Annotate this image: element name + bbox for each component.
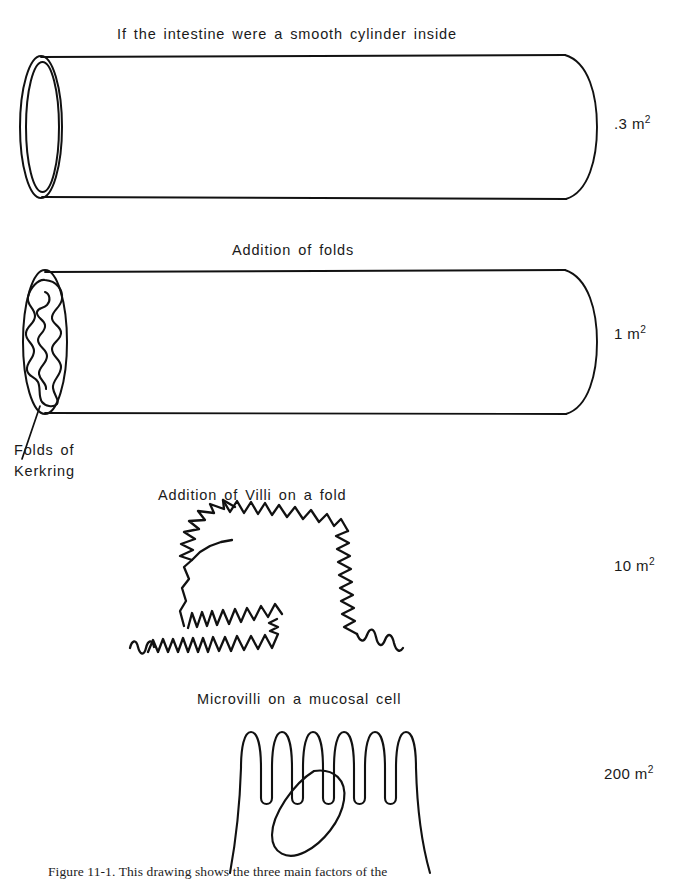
area-exponent-villi: 2 [649,556,655,567]
microvilli-illustration [210,710,480,875]
folded-cylinder-illustration [0,230,620,460]
area-exponent-smooth-cylinder: 2 [645,114,651,125]
area-label-smooth-cylinder: .3 m2 [614,115,651,132]
area-unit-villi: m [636,557,649,574]
smooth-cylinder-illustration [0,0,620,230]
stage-caption-microvilli: Microvilli on a mucosal cell [197,691,401,708]
folds-of-kerkring-line2: Kerkring [14,461,75,482]
area-unit-microvilli: m [635,765,648,782]
area-label-microvilli: 200 m2 [604,765,654,782]
area-value-folds: 1 [614,325,623,342]
area-value-smooth-cylinder: .3 [614,115,627,132]
area-unit-smooth-cylinder: m [632,115,645,132]
area-label-villi: 10 m2 [614,557,655,574]
area-exponent-folds: 2 [640,324,646,335]
folds-of-kerkring-annotation: Folds of Kerkring [14,440,75,482]
folds-of-kerkring-line1: Folds of [14,440,75,461]
figure-bottom-caption: Figure 11-1. This drawing shows the thre… [48,864,387,880]
area-label-folds: 1 m2 [614,325,646,342]
area-value-microvilli: 200 [604,765,630,782]
area-exponent-microvilli: 2 [648,764,654,775]
area-value-villi: 10 [614,557,632,574]
area-unit-folds: m [627,325,640,342]
villi-illustration [120,500,460,660]
